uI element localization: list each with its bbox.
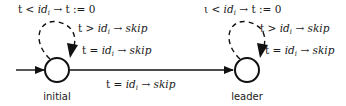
state-machine-diagram: initial leader t < idi → t := 0 t > idi … [0, 0, 346, 106]
state-initial[interactable] [45, 58, 69, 82]
guard-leader-greater: t > idi → skip [260, 22, 330, 36]
guard-initial-equal: t = idi → skip [82, 44, 152, 58]
state-initial-label: initial [43, 91, 71, 102]
guard-initial-greater: t > idi → skip [78, 22, 148, 36]
guard-leader-reset: ι < idi → t := 0 [204, 3, 281, 17]
guard-initial-to-leader: t = idi → skip [106, 78, 176, 92]
state-leader-label: leader [231, 91, 264, 102]
guard-leader-equal: t = idi → skip [265, 44, 335, 58]
state-leader[interactable] [235, 58, 259, 82]
self-loop-initial-arrowhead [67, 43, 78, 58]
guard-initial-reset: t < idi → t := 0 [18, 3, 95, 17]
